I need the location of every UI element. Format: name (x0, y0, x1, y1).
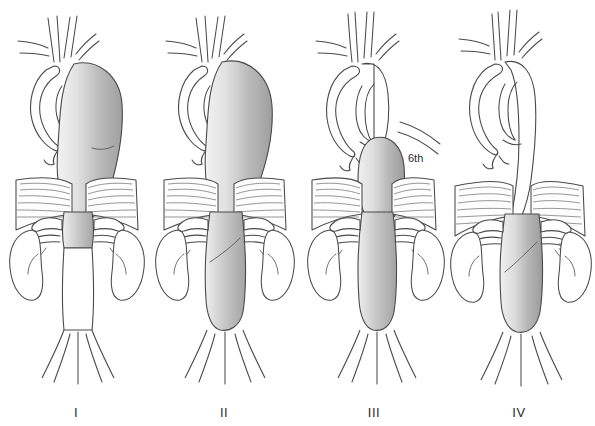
crawford-classification-figure: 6th I II III IV (0, 0, 595, 426)
arch-branch-vessels (459, 10, 542, 60)
infrarenal-aorta (42, 248, 114, 384)
panel-type-III (300, 0, 448, 392)
aneurysm-segment-abdominal (500, 214, 543, 332)
panel-caption-IV: IV (445, 405, 593, 420)
panel-type-II (150, 0, 298, 392)
aneurysm-segment-abdominal (205, 212, 245, 330)
panel-caption-II: II (150, 405, 298, 420)
iliac-arteries (481, 332, 562, 386)
annotation-sixth-rib: 6th (408, 152, 423, 164)
visceral-aortic-segment (63, 212, 94, 248)
iliac-arteries (185, 330, 265, 384)
arch-branch-vessels (166, 16, 247, 62)
panel-caption-I: I (2, 405, 150, 420)
sixth-rib-lines (398, 122, 440, 154)
panel-caption-III: III (300, 405, 448, 420)
aneurysm-segment-abdominal (358, 212, 397, 330)
arch-branch-vessels (18, 16, 99, 62)
panel-type-I (2, 0, 150, 392)
arch-branch-vessels (316, 12, 399, 62)
panel-type-IV (445, 0, 593, 392)
iliac-arteries (338, 330, 416, 384)
